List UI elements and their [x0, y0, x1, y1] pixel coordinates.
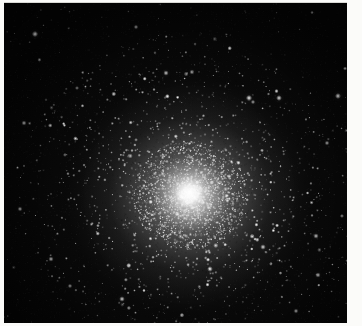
starfield-canvas: [4, 3, 347, 323]
page-margin-left: [0, 0, 4, 326]
astronomy-figure: Globular cluster: dense spherical concen…: [0, 0, 362, 326]
photographic-plate: [4, 3, 347, 323]
plate-top-edge-line: [4, 2, 347, 3]
page-margin-right: [347, 0, 362, 326]
